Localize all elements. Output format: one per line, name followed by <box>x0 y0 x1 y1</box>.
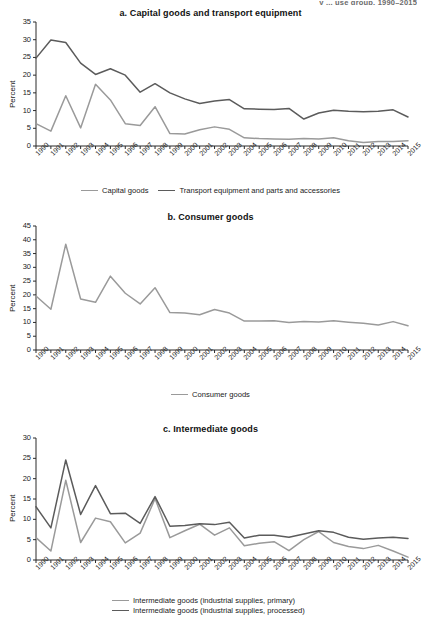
cut-off-header: y ... use group, 1990–2015 <box>319 0 417 5</box>
y-tick-label: 10 <box>13 317 31 326</box>
chart-c-axis <box>36 438 408 560</box>
legend-label: Consumer goods <box>192 390 250 399</box>
chart-a-svg <box>36 22 408 146</box>
x-tick-label: 2015 <box>406 141 422 157</box>
y-tick-label: 15 <box>13 88 31 97</box>
series-line-2 <box>36 40 408 119</box>
legend-item[interactable]: Consumer goods <box>171 390 250 399</box>
legend-line-swatch-icon <box>112 600 129 601</box>
chart-b-axis <box>36 226 408 350</box>
legend-label: Intermediate goods (industrial supplies,… <box>133 606 305 615</box>
y-tick-label: 30 <box>13 433 31 442</box>
y-tick-label: 40 <box>13 235 31 244</box>
legend-label: Intermediate goods (industrial supplies,… <box>133 596 295 605</box>
chart-a-title: a. Capital goods and transport equipment <box>0 8 421 18</box>
y-tick-label: 25 <box>13 276 31 285</box>
series-line-2 <box>36 460 408 539</box>
y-tick-label: 5 <box>13 123 31 132</box>
y-tick-label: 15 <box>13 304 31 313</box>
chart-b-legend: Consumer goods <box>0 390 421 399</box>
y-tick-label: 35 <box>13 249 31 258</box>
legend-line-swatch-icon <box>158 190 175 191</box>
y-tick-label: 20 <box>13 474 31 483</box>
y-tick-label: 25 <box>13 52 31 61</box>
y-tick-label: 15 <box>13 494 31 503</box>
legend-line-swatch-icon <box>81 190 98 191</box>
chart-c-legend: Intermediate goods (industrial supplies,… <box>0 596 421 615</box>
chart-b-title: b. Consumer goods <box>0 212 421 222</box>
y-tick-label: 10 <box>13 106 31 115</box>
series-line-1 <box>36 84 408 142</box>
chart-c-svg <box>36 438 408 560</box>
chart-panel-a: a. Capital goods and transport equipment… <box>0 8 421 208</box>
y-tick-label: 20 <box>13 290 31 299</box>
y-tick-label: 5 <box>13 331 31 340</box>
y-tick-label: 5 <box>13 535 31 544</box>
legend-item[interactable]: Intermediate goods (industrial supplies,… <box>112 596 295 605</box>
legend-line-swatch-icon <box>171 394 188 395</box>
y-tick-label: 30 <box>13 262 31 271</box>
chart-panel-b: b. Consumer goods Percent 05101520253035… <box>0 212 421 412</box>
y-tick-label: 20 <box>13 70 31 79</box>
y-tick-label: 25 <box>13 453 31 462</box>
y-tick-label: 0 <box>13 141 31 150</box>
legend-item[interactable]: Capital goods <box>81 186 148 195</box>
chart-a-legend: Capital goodsTransport equipment and par… <box>0 186 421 195</box>
legend-item[interactable]: Intermediate goods (industrial supplies,… <box>112 606 305 615</box>
legend-label: Transport equipment and parts and access… <box>179 186 340 195</box>
series-line-1 <box>36 244 408 326</box>
y-tick-label: 0 <box>13 345 31 354</box>
legend-item[interactable]: Transport equipment and parts and access… <box>158 186 340 195</box>
x-tick-label: 2015 <box>406 345 422 361</box>
y-tick-label: 10 <box>13 514 31 523</box>
chart-c-plot: 0510152025301990199119921993199419951996… <box>36 438 408 560</box>
chart-a-plot: 0510152025303519901991199219931994199519… <box>36 22 408 146</box>
y-tick-label: 45 <box>13 221 31 230</box>
legend-label: Capital goods <box>102 186 148 195</box>
y-tick-label: 30 <box>13 35 31 44</box>
chart-panel-c: c. Intermediate goods Percent 0510152025… <box>0 424 421 627</box>
legend-line-swatch-icon <box>112 610 129 611</box>
y-tick-label: 35 <box>13 17 31 26</box>
chart-b-svg <box>36 226 408 350</box>
chart-b-plot: 0510152025303540451990199119921993199419… <box>36 226 408 350</box>
chart-c-title: c. Intermediate goods <box>0 424 421 434</box>
y-tick-label: 0 <box>13 555 31 564</box>
